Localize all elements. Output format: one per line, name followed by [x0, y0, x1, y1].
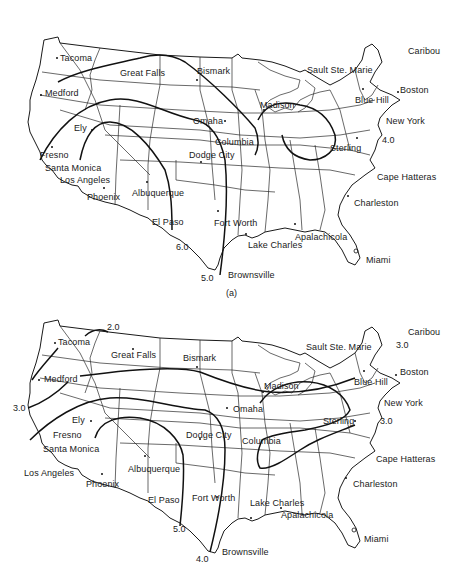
city-label-sault-ste-marie: Sault Ste. Marie [307, 65, 373, 75]
city-label-madison: Madison [260, 100, 295, 110]
city-label-miami: Miami [364, 534, 389, 544]
city-label-cape-hatteras: Cape Hatteras [377, 172, 436, 182]
city-label-medford: Medford [44, 374, 78, 384]
city-label-el-paso: El Paso [148, 495, 180, 505]
city-label-fresno: Fresno [53, 430, 82, 440]
map-b: Tacoma Great Falls Bismark Medford Omaha… [0, 290, 465, 570]
city-label-new-york: New York [386, 116, 425, 126]
city-label-apalachicola: Apalachicola [281, 510, 333, 520]
contour-label-5-0: 5.0 [201, 273, 214, 283]
city-label-caribou: Caribou [408, 327, 440, 337]
city-label-sault-ste-marie: Sault Ste. Marie [306, 342, 372, 352]
contour-label-5-0: 5.0 [173, 524, 186, 534]
contour-label-2-0: 2.0 [107, 322, 120, 332]
city-label-boston: Boston [400, 85, 429, 95]
city-label-sterling: Sterling [323, 416, 354, 426]
city-label-columbia: Columbia [242, 436, 281, 446]
city-label-omaha: Omaha [233, 404, 263, 414]
city-label-madison: Madison [264, 381, 299, 391]
city-label-ely: Ely [72, 415, 85, 425]
contour-label-3-0-east: 3.0 [380, 416, 393, 426]
contour-label-3-0-west: 3.0 [13, 403, 26, 413]
city-label-great-falls: Great Falls [120, 68, 165, 78]
contour-label-4-0: 4.0 [196, 554, 209, 564]
map-a: Tacoma Great Falls Bismark Medford Omaha… [0, 0, 465, 290]
city-label-bismark: Bismark [197, 66, 230, 76]
city-label-dodge-city: Dodge City [186, 430, 232, 440]
city-label-sterling: Sterling [330, 143, 361, 153]
city-label-fresno: Fresno [40, 150, 69, 160]
city-label-cape-hatteras: Cape Hatteras [376, 454, 435, 464]
city-label-blue-hill: Blue Hill [355, 95, 389, 105]
city-label-fort-worth: Fort Worth [192, 493, 235, 503]
city-label-bismark: Bismark [183, 353, 216, 363]
city-label-santa-monica: Santa Monica [43, 444, 99, 454]
city-label-ely: Ely [74, 123, 87, 133]
city-label-tacoma: Tacoma [60, 53, 92, 63]
city-label-new-york: New York [384, 398, 423, 408]
city-label-blue-hill: Blue Hill [354, 377, 388, 387]
city-label-fort-worth: Fort Worth [214, 218, 257, 228]
contour-label-4-0: 4.0 [382, 135, 395, 145]
city-label-caribou: Caribou [408, 46, 440, 56]
contour-label-3-0-maine: 3.0 [396, 340, 409, 350]
city-label-boston: Boston [400, 367, 429, 377]
city-label-medford: Medford [45, 88, 79, 98]
city-label-omaha: Omaha [193, 116, 223, 126]
city-label-tacoma: Tacoma [58, 337, 90, 347]
city-label-brownsville: Brownsville [228, 270, 275, 280]
city-label-santa-monica: Santa Monica [45, 163, 101, 173]
city-label-albuquerque: Albuquerque [128, 464, 180, 474]
city-label-charleston: Charleston [353, 479, 398, 489]
city-label-apalachicola: Apalachicola [295, 232, 347, 242]
contour-label-6-0: 6.0 [176, 242, 189, 252]
city-label-brownsville: Brownsville [222, 547, 269, 557]
city-label-dodge-city: Dodge City [189, 150, 235, 160]
city-label-el-paso: El Paso [152, 217, 184, 227]
city-label-los-angeles: Los Angeles [60, 175, 110, 185]
city-label-miami: Miami [366, 255, 391, 265]
city-label-los-angeles: Los Angeles [24, 468, 74, 478]
city-label-lake-charles: Lake Charles [250, 498, 304, 508]
city-label-columbia: Columbia [215, 137, 254, 147]
city-label-phoenix: Phoenix [86, 479, 119, 489]
city-label-great-falls: Great Falls [111, 350, 156, 360]
city-label-charleston: Charleston [354, 198, 399, 208]
city-label-phoenix: Phoenix [87, 192, 120, 202]
city-label-albuquerque: Albuquerque [132, 188, 184, 198]
